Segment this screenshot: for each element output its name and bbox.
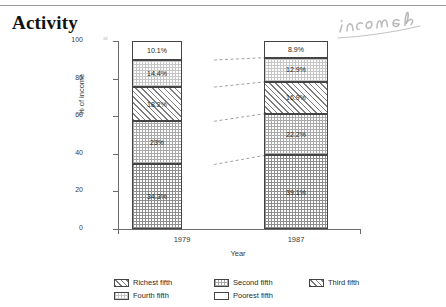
segment-1987-third-fifth[interactable]: 16.9% [264,82,328,114]
legend-swatch-richest-fifth [114,279,129,287]
x-tick-right [360,230,361,234]
bar-1987[interactable]: 8.9% 12.9% 16.9% 22.2% 39.1% [264,41,328,229]
segment-1987-poorest-fifth[interactable]: 8.9% [264,41,328,58]
segment-1979-third-fifth[interactable]: 18.2% [132,87,182,121]
y-tick-label-40: 40 [75,149,83,156]
legend-swatch-third-fifth [309,279,324,287]
legend-label: Poorest fifth [233,291,273,300]
x-label-1987: 1987 [288,235,305,244]
legend-swatch-second-fifth [214,279,229,287]
segment-label: 22.2% [285,131,307,138]
segment-label: 14.4% [146,70,168,77]
segment-label: 34.3% [146,193,168,200]
segment-label: 12.9% [285,66,307,73]
legend-item-third-fifth[interactable]: Third fifth [309,278,359,287]
y-tick-label-0: 0 [79,224,83,231]
page-title: Activity [12,12,78,34]
segment-label: 10.1% [146,47,168,54]
segment-1979-richest-fifth[interactable]: 34.3% [132,164,182,229]
segment-1979-second-fifth[interactable]: 23% [132,121,182,164]
legend-label: Fourth fifth [133,291,169,300]
y-tick-label-80: 80 [75,74,83,81]
segment-label: 8.9% [287,46,305,53]
segment-label: 23% [149,139,165,146]
legend-label: Third fifth [328,278,359,287]
segment-label: 16.9% [285,94,307,101]
legend-label: Richest fifth [133,278,172,287]
legend-item-fourth-fifth[interactable]: Fourth fifth [114,291,214,300]
chart-legend: Richest fifth Second fifth Third fifth F… [114,276,384,302]
legend-swatch-fourth-fifth [114,292,129,300]
y-tick-label-20: 20 [75,186,83,193]
legend-row-1: Richest fifth Second fifth Third fifth [114,276,384,289]
legend-row-2: Fourth fifth Poorest fifth [114,289,384,302]
legend-item-second-fifth[interactable]: Second fifth [214,278,309,287]
segment-1987-fourth-fifth[interactable]: 12.9% [264,58,328,82]
legend-item-richest-fifth[interactable]: Richest fifth [114,278,214,287]
y-axis-line [118,41,119,230]
segment-1987-richest-fifth[interactable]: 39.1% [264,155,328,229]
legend-label: Second fifth [233,278,273,287]
bar-1979[interactable]: 10.1% 14.4% 18.2% 23% 34.3% [132,41,182,229]
x-label-1979: 1979 [174,235,191,244]
legend-swatch-poorest-fifth [214,292,229,300]
x-axis-line [118,229,361,230]
y-tick-label-100: 100 [71,36,83,43]
x-tick-left [118,230,119,234]
segment-label: 18.2% [146,101,168,108]
segment-1987-second-fifth[interactable]: 22.2% [264,114,328,156]
segment-label: 39.1% [285,189,307,196]
segment-1979-poorest-fifth[interactable]: 10.1% [132,41,182,60]
y-tick-label-60: 60 [75,111,83,118]
legend-item-poorest-fifth[interactable]: Poorest fifth [214,291,273,300]
stacked-bar-chart: % of income 100 80 60 40 20 0 1979 1987 … [86,37,364,250]
header-divider [0,5,446,6]
segment-1979-fourth-fifth[interactable]: 14.4% [132,60,182,87]
x-axis-title: Year [230,249,245,258]
